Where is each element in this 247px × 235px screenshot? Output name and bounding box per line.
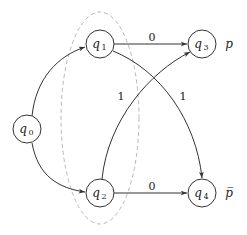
state-q3: q 3: [188, 30, 216, 58]
state-q1-label: q: [92, 37, 100, 51]
edge-label-q2-q3: 1: [118, 90, 125, 103]
state-q4: q 4: [188, 179, 216, 207]
edge-label-q1-q4: 1: [180, 90, 187, 103]
state-q2-subscript: 2: [101, 192, 106, 201]
state-q4-label: q: [194, 186, 202, 200]
edge-q0-q1: [32, 47, 85, 116]
state-q3-label: q: [194, 37, 202, 51]
state-q1: q 1: [86, 30, 114, 58]
state-q1-subscript: 1: [101, 43, 106, 52]
edge-label-q2-q4: 0: [149, 180, 156, 193]
proposition-q3: p: [225, 37, 233, 51]
state-q2: q 2: [86, 179, 114, 207]
edge-q0-q2: [32, 143, 85, 192]
state-q0: q 0: [13, 115, 41, 143]
state-q3-subscript: 3: [203, 43, 208, 52]
state-q0-label: q: [19, 122, 27, 136]
state-q0-subscript: 0: [28, 128, 33, 137]
edge-q1-q4: [113, 51, 202, 178]
automaton-diagram: 0 1 1 0 q 0 q 1 q 2 q 3 q 4 p p̅: [0, 0, 247, 235]
proposition-q4: p̅: [225, 186, 233, 200]
state-q2-label: q: [92, 186, 100, 200]
state-q4-subscript: 4: [203, 192, 208, 201]
edge-label-q1-q3: 0: [149, 31, 156, 44]
